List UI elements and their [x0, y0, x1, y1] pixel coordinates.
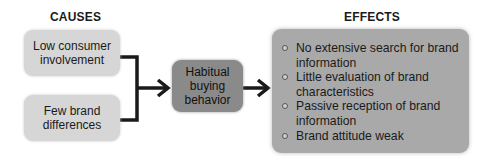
cause-label: Low consumer involvement	[24, 39, 120, 67]
effects-box: No extensive search for brand informatio…	[272, 29, 469, 153]
bullet-icon	[282, 74, 288, 80]
cause-label: Few brand differences	[24, 104, 120, 132]
cause-box-few-differences: Few brand differences	[24, 95, 120, 141]
bullet-icon	[282, 133, 288, 139]
bullet-icon	[282, 45, 288, 51]
effect-item: Little evaluation of brand characteristi…	[282, 70, 461, 99]
center-label: Habitual buying behavior	[172, 65, 243, 107]
effect-item: No extensive search for brand informatio…	[282, 41, 461, 70]
bullet-icon	[282, 103, 288, 109]
habitual-buying-box: Habitual buying behavior	[172, 60, 243, 112]
effect-item: Passive reception of brand information	[282, 99, 461, 128]
cause-box-low-involvement: Low consumer involvement	[24, 30, 120, 76]
effect-item: Brand attitude weak	[282, 129, 461, 144]
effects-list: No extensive search for brand informatio…	[282, 41, 461, 143]
